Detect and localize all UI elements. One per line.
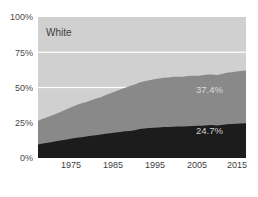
value-label-middle: 37.4% [196,84,223,95]
y-tick-25: 25% [15,118,33,128]
chart-title: White [46,27,72,38]
x-tick-1995: 1995 [145,160,165,171]
y-tick-50: 50% [15,83,33,93]
y-tick-75: 75% [15,48,33,58]
x-tick-1985: 1985 [103,160,123,171]
y-tick-100: 100% [10,12,33,22]
x-tick-1975: 1975 [61,160,81,171]
x-tick-2005: 2005 [187,160,207,171]
x-tick-2015: 2015 [227,160,247,171]
value-label-bottom: 24.7% [196,125,223,136]
area-chart: 100% 75% 50% 25% 0% 1975 1985 1995 2005 … [0,0,258,197]
x-axis: 1975 1985 1995 2005 2015 [0,160,258,176]
